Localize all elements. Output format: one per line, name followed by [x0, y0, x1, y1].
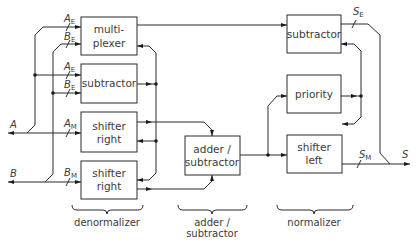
arrow-a-in-icon: [8, 131, 14, 135]
svg-text:SE: SE: [353, 6, 364, 19]
junction-dot: [33, 73, 37, 77]
shifter-left-label-2: left: [305, 154, 322, 166]
denormalizer-brace: [72, 205, 143, 214]
multiplexer-label-2: plexer: [93, 37, 126, 49]
shifter-left-label-1: shifter: [297, 141, 331, 153]
adder-caption-2: subtractor: [186, 228, 239, 239]
denormalizer-caption: denormalizer: [74, 217, 141, 228]
priority-label: priority: [295, 88, 333, 100]
junction-dot: [51, 91, 55, 95]
multiplexer-label-1: multi-: [94, 23, 125, 35]
normalizer-brace: [277, 205, 353, 214]
signal-s-label: S: [402, 149, 409, 160]
normalize-subtractor-label: subtractor: [287, 28, 342, 40]
shifter-right-b-label-1: shifter: [92, 167, 126, 179]
shifter-right-a-label-2: right: [97, 133, 122, 145]
arrow-b-in-icon: [8, 180, 14, 184]
svg-text:BE: BE: [64, 31, 75, 44]
adder-label-2: subtractor: [185, 156, 240, 168]
adder-brace: [178, 205, 247, 214]
floating-point-adder-diagram: multi- plexer subtractor shifter right s…: [0, 0, 419, 242]
svg-text:BM: BM: [64, 167, 77, 180]
shifter-right-b-label-2: right: [97, 180, 122, 192]
normalizer-caption: normalizer: [287, 217, 341, 228]
adder-label-1: adder /: [193, 143, 231, 155]
signal-a-label: A: [9, 119, 17, 130]
adder-caption-1: adder /: [194, 217, 230, 228]
shifter-right-a-label-1: shifter: [92, 120, 126, 132]
svg-text:AM: AM: [63, 118, 77, 131]
signal-b-label: B: [10, 168, 17, 179]
shifter-right-a-block: [81, 112, 137, 152]
arrow-s-out-icon: [404, 162, 410, 166]
exponent-subtractor-label: subtractor: [82, 77, 137, 89]
